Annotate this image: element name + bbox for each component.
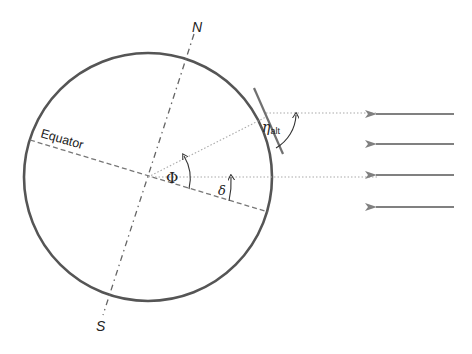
latitude-angle-arc [184, 156, 190, 189]
solar-geometry-diagram: N S Equator Φ δ ηalt [0, 0, 472, 354]
latitude-label: Φ [166, 169, 178, 187]
equator-label: Equator [39, 126, 85, 152]
declination-angle-arc [229, 177, 231, 201]
observer-radius-line [148, 117, 266, 177]
sun-rays [376, 114, 454, 207]
declination-label: δ [218, 183, 226, 198]
north-label: N [192, 19, 203, 35]
polar-axis [103, 34, 194, 315]
altitude-label: ηalt [262, 119, 280, 136]
south-label: S [96, 318, 106, 334]
altitude-subscript: alt [270, 126, 280, 136]
